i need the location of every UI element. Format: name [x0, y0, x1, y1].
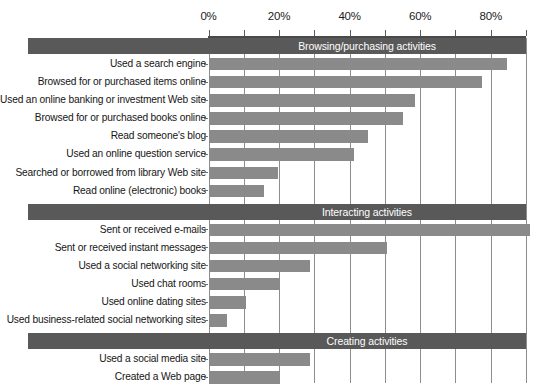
- bar-row: Used a social media site: [0, 350, 559, 368]
- bar-category-label: Used a search engine: [110, 55, 206, 73]
- chart-rows: Browsing/purchasing activitiesUsed a sea…: [0, 38, 559, 387]
- bar-row: Sent or received instant messages: [0, 239, 559, 257]
- bar-row: Used chat rooms: [0, 275, 559, 293]
- y-axis-tick-mark: [204, 302, 208, 303]
- y-axis-tick-mark: [204, 172, 208, 173]
- y-axis-tick-mark: [204, 320, 208, 321]
- bar: [209, 112, 403, 124]
- x-axis-tick-mark: [526, 30, 527, 36]
- bar: [209, 130, 368, 142]
- x-axis-tick-mark: [455, 30, 456, 36]
- bar: [209, 260, 310, 272]
- x-axis-tick-label: 60%: [409, 10, 431, 22]
- bar-row: Read online (electronic) books: [0, 182, 559, 200]
- bar-row: Used a search engine: [0, 55, 559, 73]
- bar-row: Used an online banking or investment Web…: [0, 91, 559, 109]
- x-axis-tick-label: 20%: [268, 10, 290, 22]
- y-axis-tick-mark: [204, 359, 208, 360]
- bar: [209, 76, 482, 88]
- y-axis-tick-mark: [204, 82, 208, 83]
- bar-category-label: Browsed for or purchased books online: [35, 109, 206, 127]
- bar-category-label: Used online dating sites: [101, 293, 206, 311]
- x-axis-tick-label: 0%: [200, 10, 216, 22]
- bar: [209, 371, 280, 383]
- bar-category-label: Searched or borrowed from library Web si…: [15, 164, 206, 182]
- bar-category-label: Used a social networking site: [78, 257, 206, 275]
- group-header: Browsing/purchasing activities: [0, 38, 559, 54]
- bar-category-label: Sent or received instant messages: [55, 239, 206, 257]
- group-header-label: Interacting activities: [208, 204, 526, 220]
- y-axis-tick-mark: [204, 229, 208, 230]
- group-header-label: Browsing/purchasing activities: [208, 38, 526, 54]
- y-axis-tick-mark: [204, 265, 208, 266]
- x-axis-tick-mark: [420, 30, 421, 36]
- group-header: Interacting activities: [0, 204, 559, 220]
- bar-row: Used online dating sites: [0, 293, 559, 311]
- y-axis-tick-mark: [204, 100, 208, 101]
- group-header-label: Creating activities: [208, 333, 526, 349]
- x-axis-tick-label: 80%: [480, 10, 502, 22]
- bar: [209, 353, 310, 365]
- y-axis-tick-mark: [204, 377, 208, 378]
- bar: [209, 148, 354, 160]
- x-axis-tick-mark: [244, 30, 245, 36]
- y-axis-tick-mark: [204, 190, 208, 191]
- bar-category-label: Read online (electronic) books: [73, 182, 206, 200]
- bar-row: Read someone's blog: [0, 127, 559, 145]
- bar-row: Created a Web page: [0, 368, 559, 386]
- bar: [209, 58, 507, 70]
- bar: [209, 314, 227, 326]
- y-axis-tick-mark: [204, 118, 208, 119]
- bar-row: Used business-related social networking …: [0, 311, 559, 329]
- bar-category-label: Created a Web page: [115, 368, 206, 386]
- bar: [209, 224, 530, 236]
- bar-category-label: Used an online banking or investment Web…: [0, 91, 206, 109]
- bar-row: Searched or borrowed from library Web si…: [0, 164, 559, 182]
- bar: [209, 242, 387, 254]
- y-axis-tick-mark: [204, 284, 208, 285]
- y-axis-tick-mark: [204, 64, 208, 65]
- bar-category-label: Used chat rooms: [131, 275, 206, 293]
- bar: [209, 185, 264, 197]
- x-axis-tick-labels: 0%20%40%60%80%: [0, 10, 559, 28]
- x-axis-tick-mark: [209, 30, 210, 36]
- group-header: Creating activities: [0, 333, 559, 349]
- bar-category-label: Browsed for or purchased items online: [38, 73, 206, 91]
- bar: [209, 278, 280, 290]
- x-axis-tick-mark: [385, 30, 386, 36]
- bar-category-label: Sent or received e-mails: [100, 221, 206, 239]
- bar: [209, 94, 415, 106]
- bar: [209, 167, 278, 179]
- x-axis-tick-mark: [491, 30, 492, 36]
- y-axis-tick-mark: [204, 154, 208, 155]
- bar-category-label: Read someone's blog: [111, 127, 206, 145]
- x-axis-tick-label: 40%: [338, 10, 360, 22]
- bar-row: Browsed for or purchased books online: [0, 109, 559, 127]
- bar-row: Used an online question service: [0, 145, 559, 163]
- bar-row: Browsed for or purchased items online: [0, 73, 559, 91]
- bar-row: Used a social networking site: [0, 257, 559, 275]
- bar: [209, 296, 246, 308]
- x-axis-tick-mark: [350, 30, 351, 36]
- bar-category-label: Used a social media site: [99, 350, 206, 368]
- x-axis-tick-mark: [314, 30, 315, 36]
- y-axis-tick-mark: [204, 136, 208, 137]
- x-axis-tick-mark: [279, 30, 280, 36]
- bar-row: Sent or received e-mails: [0, 221, 559, 239]
- bar-category-label: Used an online question service: [66, 145, 206, 163]
- bar-category-label: Used business-related social networking …: [7, 311, 206, 329]
- y-axis-tick-mark: [204, 247, 208, 248]
